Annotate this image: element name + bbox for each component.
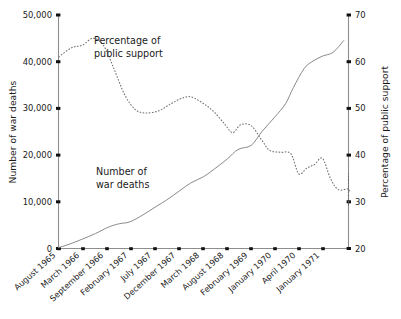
x-tick-9 — [273, 247, 277, 250]
right-tick-20 — [347, 247, 351, 250]
annotation-public-support: Percentage of public support — [94, 35, 163, 59]
chart-figure: 0 10,000 20,000 30,000 40,000 50,000 20 … — [0, 0, 401, 319]
left-tick-label-50000: 50,000 — [23, 10, 52, 20]
right-tick-50 — [347, 107, 351, 110]
annotation-war-deaths-line1: Number of — [96, 166, 147, 177]
annotation-war-deaths: Number of war deaths — [96, 166, 149, 190]
left-tick-label-20000: 20,000 — [23, 150, 52, 160]
left-tick-label-40000: 40,000 — [23, 57, 52, 67]
right-tick-60 — [347, 60, 351, 63]
x-axis-tick-labels: August 1965 March 1966 September 1966 Fe… — [12, 250, 321, 303]
right-tick-70 — [347, 14, 351, 17]
left-tick-40000 — [56, 60, 60, 63]
x-tick-4 — [153, 247, 157, 250]
left-axis-tick-labels: 0 10,000 20,000 30,000 40,000 50,000 — [23, 10, 52, 254]
x-tick-7 — [225, 247, 229, 250]
annotation-war-deaths-line2: war deaths — [96, 179, 149, 190]
annotation-public-support-line2: public support — [94, 48, 163, 59]
x-tick-6 — [201, 247, 205, 250]
right-tick-label-40: 40 — [355, 150, 366, 160]
x-tick-3 — [129, 247, 133, 250]
x-tick-10 — [297, 247, 301, 250]
right-tick-label-50: 50 — [355, 103, 366, 113]
left-tick-50000 — [56, 14, 60, 17]
right-tick-label-70: 70 — [355, 10, 366, 20]
x-tick-8 — [249, 247, 253, 250]
x-tick-2 — [105, 247, 109, 250]
right-axis-title: Percentage of public support — [379, 65, 390, 198]
x-tick-1 — [81, 247, 85, 250]
right-axis-tick-labels: 20 30 40 50 60 70 — [355, 10, 366, 254]
right-tick-label-20: 20 — [355, 244, 366, 254]
left-tick-label-10000: 10,000 — [23, 197, 52, 207]
chart-canvas: 0 10,000 20,000 30,000 40,000 50,000 20 … — [0, 0, 401, 319]
series-line-war-deaths — [59, 41, 344, 248]
annotation-public-support-line1: Percentage of — [94, 35, 161, 46]
x-tick-11 — [321, 247, 325, 250]
right-tick-40 — [347, 154, 351, 157]
left-tick-label-30000: 30,000 — [23, 103, 52, 113]
x-tick-5 — [177, 247, 181, 250]
right-tick-label-60: 60 — [355, 57, 366, 67]
left-tick-10000 — [56, 200, 60, 203]
left-tick-30000 — [56, 107, 60, 110]
left-axis-title: Number of war deaths — [7, 80, 18, 183]
right-tick-label-30: 30 — [355, 197, 366, 207]
left-tick-20000 — [56, 154, 60, 157]
